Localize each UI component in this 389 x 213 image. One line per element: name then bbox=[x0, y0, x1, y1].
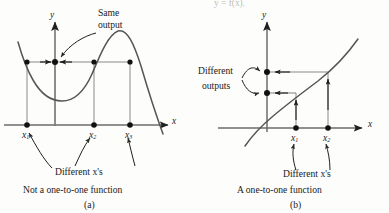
panel-b-leader-output-1 bbox=[242, 80, 259, 93]
panel-a-label: (a) bbox=[84, 200, 95, 210]
panel-b-x-axis-label: x bbox=[368, 120, 372, 130]
panel-b-leader-output-2 bbox=[242, 68, 260, 78]
panel-b-different-xs-label: Different x's bbox=[283, 169, 331, 179]
panel-a-x-tick-2: x2 bbox=[89, 130, 96, 141]
panel-b-different-outputs-line2: outputs bbox=[202, 81, 230, 91]
panel-b-x-dot-2 bbox=[325, 125, 331, 131]
panel-a-leader-x1 bbox=[29, 133, 52, 168]
panel-b-x-dot-1 bbox=[293, 125, 299, 131]
panel-a-curve-dot-1 bbox=[24, 59, 29, 64]
panel-b-curve bbox=[245, 39, 358, 146]
panel-a-different-xs-label: Different x's bbox=[55, 167, 103, 177]
panel-a-x-dot-3 bbox=[127, 122, 133, 128]
panel-b-x-tick-1: x1 bbox=[291, 133, 298, 144]
panel-a-output-dot bbox=[52, 59, 58, 65]
panel-a-x-tick-3: x3 bbox=[125, 130, 132, 141]
panel-a-x-dot-1 bbox=[24, 122, 30, 128]
panel-b-output-dot-2 bbox=[264, 69, 270, 75]
panel-a-caption: Not a one-to-one function bbox=[23, 185, 122, 195]
panel-a-same-output-line2: output bbox=[98, 20, 123, 30]
panel-a-graph bbox=[4, 22, 168, 168]
panel-b-different-outputs-line1: Different bbox=[198, 66, 233, 76]
figure-canvas bbox=[0, 0, 389, 213]
panel-a-y-axis-label: y bbox=[50, 11, 54, 21]
panel-a-leader-x3 bbox=[128, 138, 135, 166]
panel-b-leader-x2 bbox=[326, 144, 330, 170]
panel-a-curve-dot-2 bbox=[91, 59, 96, 64]
panel-b-output-dot-1 bbox=[264, 90, 270, 96]
panel-b-label: (b) bbox=[290, 200, 301, 210]
panel-b-caption: A one-to-one function bbox=[237, 185, 322, 195]
panel-a-same-output-line1: Same bbox=[98, 8, 119, 18]
panel-a-curve-dot-3 bbox=[127, 59, 132, 64]
panel-b-graph bbox=[218, 22, 362, 170]
panel-a-x-dot-2 bbox=[91, 122, 97, 128]
panel-a-x-tick-1: x1 bbox=[22, 130, 29, 141]
panel-b-x-tick-2: x2 bbox=[323, 133, 330, 144]
panel-a-x-axis-label: x bbox=[172, 117, 176, 127]
panel-b-leader-x1 bbox=[293, 144, 296, 170]
panel-a-same-output-leader bbox=[61, 33, 96, 57]
panel-a-curve bbox=[18, 31, 163, 134]
panel-b-y-axis-label: y bbox=[262, 11, 266, 21]
panel-a-leader-x2 bbox=[75, 138, 90, 166]
